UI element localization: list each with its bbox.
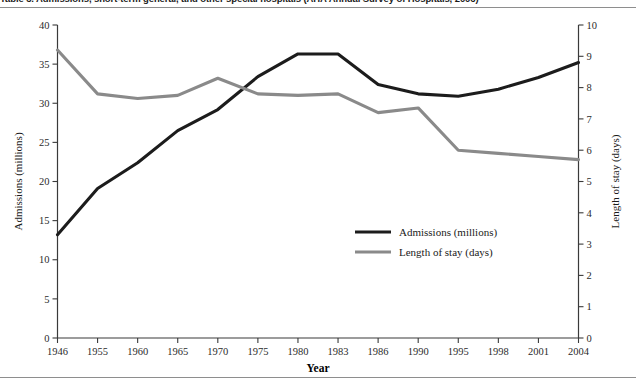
- x-axis-tick-label: 1998: [488, 346, 509, 357]
- left-axis-tick-label: 35: [39, 59, 50, 70]
- right-axis-tick-label: 1: [587, 301, 592, 312]
- x-axis-tick-label: 1970: [207, 346, 228, 357]
- left-axis-tick-label: 5: [44, 294, 49, 305]
- x-axis-tick-label: 1960: [127, 346, 148, 357]
- right-axis-tick-label: 10: [587, 20, 598, 31]
- right-axis-tick-label: 5: [587, 176, 592, 187]
- right-axis-tick-label: 3: [587, 239, 592, 250]
- x-axis-tick-label: 2001: [528, 346, 549, 357]
- left-axis-tick-label: 10: [39, 254, 50, 265]
- series-line-admissions: [58, 54, 579, 235]
- right-axis-tick-label: 9: [587, 51, 592, 62]
- x-axis-title: Year: [307, 362, 330, 374]
- series-line-length-of-stay: [58, 50, 579, 160]
- x-axis-tick-label: 1965: [167, 346, 188, 357]
- left-axis-tick-label: 20: [39, 176, 50, 187]
- x-axis-tick-label: 1990: [408, 346, 429, 357]
- legend-label: Admissions (millions): [399, 226, 497, 239]
- left-axis-tick-label: 40: [39, 20, 50, 31]
- left-axis-tick-label: 0: [44, 333, 49, 344]
- x-axis-tick-label: 1975: [247, 346, 268, 357]
- left-axis-tick-label: 30: [39, 98, 50, 109]
- left-axis-title: Admissions (millions): [12, 132, 25, 230]
- right-axis-tick-label: 4: [587, 208, 593, 219]
- x-axis-tick-label: 1946: [47, 346, 68, 357]
- right-axis-tick-label: 8: [587, 82, 592, 93]
- x-axis-tick-label: 1980: [287, 346, 308, 357]
- left-axis-tick-label: 15: [39, 215, 50, 226]
- x-axis-tick-label: 1986: [368, 346, 389, 357]
- right-axis-tick-label: 6: [587, 145, 592, 156]
- x-axis-tick-label: 2004: [568, 346, 590, 357]
- right-axis-tick-label: 7: [587, 114, 592, 125]
- left-axis-tick-label: 25: [39, 137, 50, 148]
- right-axis-tick-label: 0: [587, 333, 592, 344]
- legend-label: Length of stay (days): [399, 246, 493, 259]
- right-axis-tick-label: 2: [587, 270, 592, 281]
- right-axis-title: Length of stay (days): [609, 134, 622, 228]
- figure-container: Table 3. Admissions, short-term general,…: [0, 0, 636, 389]
- x-axis-tick-label: 1995: [448, 346, 469, 357]
- line-chart: 0510152025303540012345678910194619551960…: [0, 0, 636, 389]
- x-axis-tick-label: 1983: [328, 346, 349, 357]
- x-axis-tick-label: 1955: [87, 346, 108, 357]
